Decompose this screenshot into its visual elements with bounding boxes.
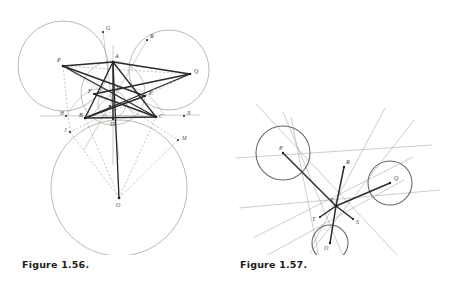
label-R: R xyxy=(149,33,154,39)
tangent-line-7 xyxy=(310,120,414,253)
figure-1-57-canvas: P Q R O X S T xyxy=(228,0,456,255)
point-X xyxy=(335,205,338,208)
label-R: R xyxy=(345,159,350,165)
figure-1-57-labels: P Q R O X S T xyxy=(278,145,399,251)
label-D: D xyxy=(109,121,115,127)
figure-1-56-thin-lines xyxy=(40,32,200,165)
label-O: O xyxy=(116,202,121,208)
point-N xyxy=(183,115,185,117)
label-G: G xyxy=(106,25,111,31)
point-O xyxy=(329,242,331,244)
figure-1-56-bold-lines xyxy=(63,62,190,198)
label-A: A xyxy=(114,53,119,59)
seg-P-A xyxy=(63,62,113,66)
point-H xyxy=(65,115,67,117)
point-B xyxy=(84,117,87,120)
label-E: E xyxy=(148,90,153,96)
point-G xyxy=(102,31,104,33)
point-M xyxy=(177,139,179,141)
label-O: O xyxy=(324,245,329,251)
figure-1-57: P Q R O X S T xyxy=(228,0,456,255)
tangent-line-6 xyxy=(312,108,385,246)
tangent-line-2 xyxy=(236,145,432,158)
point-P xyxy=(282,152,284,154)
label-M: M xyxy=(181,135,187,141)
label-P: P xyxy=(278,145,283,151)
seg-X-S xyxy=(336,206,353,219)
label-P: P xyxy=(56,57,61,63)
point-S xyxy=(352,218,354,220)
figure-1-56-canvas: P Q O A B C D E F G R H N J M Y xyxy=(0,0,228,255)
figure-page: P Q O A B C D E F G R H N J M Y xyxy=(0,0,456,287)
figure-1-56: P Q O A B C D E F G R H N J M Y xyxy=(0,0,228,255)
seg-R-X xyxy=(336,167,344,206)
point-X xyxy=(109,105,111,107)
figure-1-56-circles xyxy=(18,21,209,255)
figure-1-57-points xyxy=(282,152,391,244)
label-C: C xyxy=(159,113,164,119)
point-R xyxy=(146,39,148,41)
figure-1-57-thin-lines xyxy=(236,104,440,255)
label-Q: Q xyxy=(194,68,199,74)
point-E xyxy=(144,95,146,97)
point-Q xyxy=(389,182,391,184)
dashed-P-J xyxy=(63,66,70,132)
label-J: J xyxy=(64,127,67,133)
point-D xyxy=(112,118,114,120)
label-X: X xyxy=(329,197,334,203)
dashed-O-C xyxy=(119,117,156,198)
seg-Q-A xyxy=(113,62,190,74)
dashed-O-J xyxy=(70,132,119,198)
label-N: N xyxy=(186,110,191,116)
label-F: F xyxy=(87,88,92,94)
point-P xyxy=(62,65,65,68)
point-O xyxy=(118,197,121,200)
point-F xyxy=(93,93,95,95)
label-S: S xyxy=(356,219,359,225)
caption-figure-1-56: Figure 1.56. xyxy=(22,259,89,270)
label-T: T xyxy=(312,216,316,222)
label-Q: Q xyxy=(394,175,399,181)
point-J xyxy=(69,131,71,133)
seg-O-A xyxy=(113,62,119,198)
point-A xyxy=(112,61,115,64)
seg-B-C xyxy=(85,117,156,118)
point-R xyxy=(343,166,345,168)
dashed-O-M xyxy=(119,140,178,198)
figure-1-56-labels: P Q O A B C D E F G R H N J M Y xyxy=(56,25,199,208)
caption-figure-1-57: Figure 1.57. xyxy=(240,259,307,270)
label-B: B xyxy=(79,112,83,118)
point-Q xyxy=(189,73,192,76)
dashed-O-B xyxy=(85,118,119,198)
point-T xyxy=(319,216,321,218)
point-C xyxy=(155,116,158,119)
